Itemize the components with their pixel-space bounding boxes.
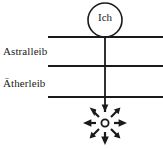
- aetherleib-label: Ätherleib: [3, 77, 45, 89]
- diagram-canvas: [0, 0, 163, 149]
- anthroposophic-body-diagram: Ich Astralleib Ätherleib: [0, 0, 163, 149]
- ich-label: Ich: [88, 11, 122, 23]
- astralleib-label: Astralleib: [3, 45, 47, 57]
- diagram-background: [0, 0, 163, 149]
- star-center-circle: [101, 119, 108, 126]
